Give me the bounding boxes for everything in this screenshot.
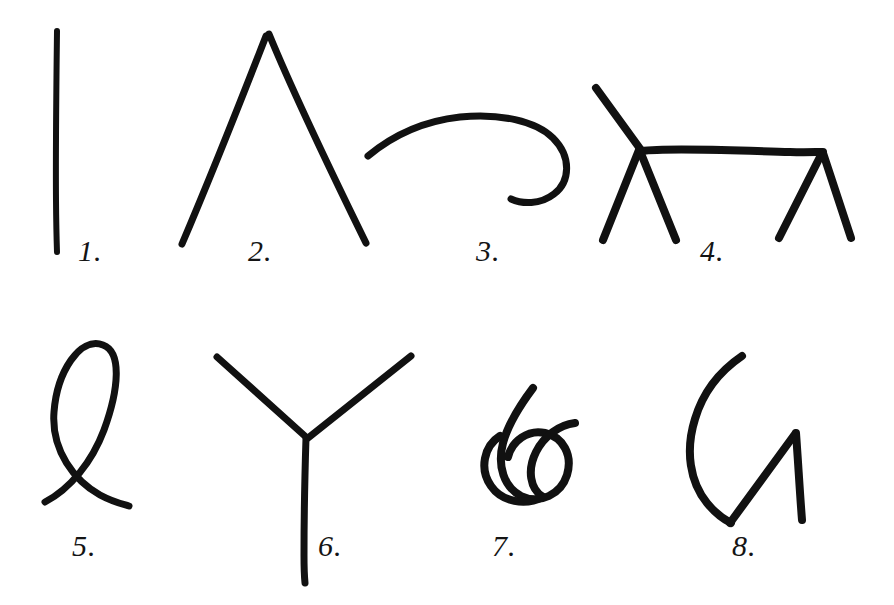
figure-8-g-curve: [690, 356, 802, 523]
figure-6-y-junction: [217, 356, 411, 583]
figure-sheet: 1. 2. 3. 4. 5. 6. 7. 8.: [0, 0, 894, 605]
figures-canvas: [0, 0, 894, 605]
figure-2-peak-chevron: [182, 34, 366, 244]
figure-label-7: 7.: [492, 531, 517, 561]
figure-label-3: 3.: [476, 236, 501, 266]
figure-5-crossed-loop: [45, 344, 129, 506]
figure-3-hook-spiral: [368, 116, 567, 203]
figure-1-vertical-stroke: [56, 31, 57, 252]
figure-4-stick-animal: [596, 88, 851, 240]
figure-7-overhand-knot: [484, 388, 575, 502]
figure-label-1: 1.: [78, 236, 103, 266]
figure-label-4: 4.: [700, 236, 725, 266]
figure-label-5: 5.: [72, 531, 97, 561]
figure-label-2: 2.: [248, 236, 273, 266]
figure-label-6: 6.: [318, 531, 343, 561]
figure-label-8: 8.: [732, 531, 757, 561]
